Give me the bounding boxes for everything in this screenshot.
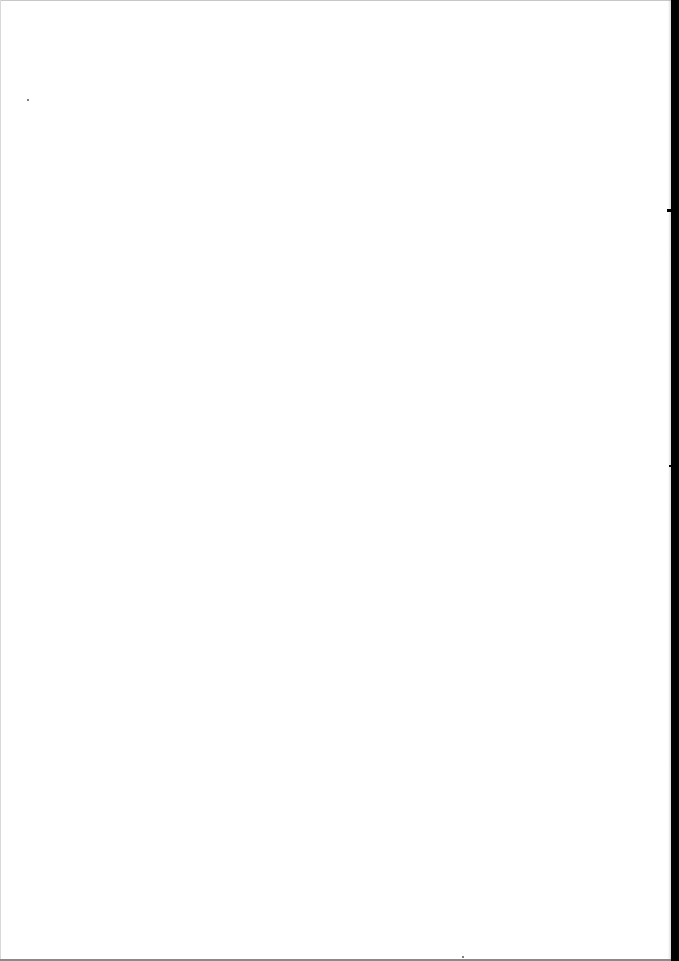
- dust-speck: [27, 99, 29, 101]
- dust-speck: [462, 956, 464, 958]
- blank-scanned-page: [0, 0, 679, 961]
- scan-edge-notch: [669, 465, 679, 467]
- page-left-edge: [0, 0, 1, 961]
- scan-edge-black-strip: [671, 0, 679, 961]
- page-top-edge: [0, 0, 672, 1]
- scan-edge-notch: [667, 209, 679, 212]
